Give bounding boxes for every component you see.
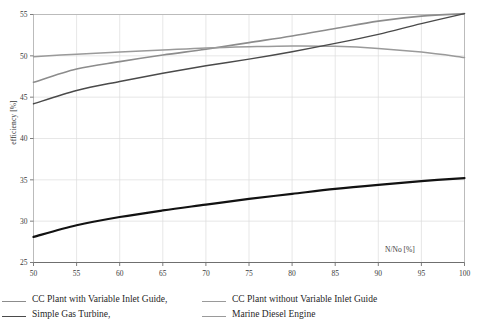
svg-text:85: 85 <box>331 269 339 278</box>
svg-text:30: 30 <box>20 217 28 226</box>
svg-text:90: 90 <box>375 269 383 278</box>
legend-swatch-cc-plant-with-vig <box>2 301 26 302</box>
svg-text:100: 100 <box>459 269 471 278</box>
legend-label-cc-plant-without-vig: CC Plant without Variable Inlet Guide <box>232 294 377 304</box>
legend-item-simple-gas-turbine: Simple Gas Turbine, <box>0 309 202 319</box>
x-axis-title: N/No [%] <box>385 245 415 254</box>
legend-swatch-marine-diesel-engine <box>202 316 226 317</box>
legend-label-simple-gas-turbine: Simple Gas Turbine, <box>32 309 110 319</box>
svg-text:65: 65 <box>159 269 167 278</box>
svg-text:25: 25 <box>20 258 28 267</box>
svg-text:75: 75 <box>245 269 253 278</box>
legend-label-cc-plant-with-vig: CC Plant with Variable Inlet Guide, <box>32 294 167 304</box>
svg-text:55: 55 <box>73 269 81 278</box>
legend-label-marine-diesel-engine: Marine Diesel Engine <box>232 309 315 319</box>
svg-text:40: 40 <box>20 134 28 143</box>
svg-text:50: 50 <box>30 269 38 278</box>
legend-swatch-simple-gas-turbine <box>2 316 26 317</box>
svg-text:80: 80 <box>288 269 296 278</box>
legend-item-marine-diesel-engine: Marine Diesel Engine <box>202 309 462 319</box>
line-chart-plot: 5055606570758085909510025303540455055 <box>0 0 482 327</box>
svg-text:95: 95 <box>418 269 426 278</box>
legend-swatch-cc-plant-without-vig <box>202 301 226 302</box>
chart-figure: 5055606570758085909510025303540455055 ef… <box>0 0 482 327</box>
svg-text:45: 45 <box>20 93 28 102</box>
svg-text:35: 35 <box>20 176 28 185</box>
svg-text:70: 70 <box>202 269 210 278</box>
grid-lines <box>34 15 465 263</box>
axis-ticks <box>30 15 465 267</box>
svg-text:60: 60 <box>116 269 124 278</box>
svg-text:55: 55 <box>20 10 28 19</box>
legend-item-cc-plant-without-vig: CC Plant without Variable Inlet Guide <box>202 294 462 304</box>
svg-text:50: 50 <box>20 52 28 61</box>
legend-row: CC Plant with Variable Inlet Guide, CC P… <box>0 291 482 306</box>
y-axis-title: efficiency [%] <box>9 88 18 158</box>
legend-item-cc-plant-with-vig: CC Plant with Variable Inlet Guide, <box>0 294 202 304</box>
chart-legend: CC Plant with Variable Inlet Guide, CC P… <box>0 291 482 325</box>
legend-row: Simple Gas Turbine, Marine Diesel Engine <box>0 306 482 321</box>
